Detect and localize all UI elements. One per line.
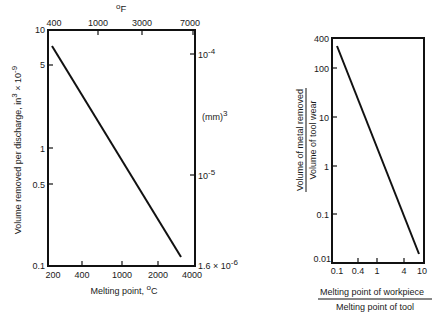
bottom-axis-ticks: 200 400 1000 2000 4000 <box>45 261 202 280</box>
left-chart: oF 400 1000 3000 7000 10 5 1 0.5 0.1 <box>10 2 238 296</box>
x-tick-label: 1 <box>374 266 379 276</box>
top-axis-ticks: 400 1000 3000 7000 <box>46 18 200 35</box>
y-tick-label: 400 <box>314 34 329 44</box>
x-tick-label: 200 <box>45 270 60 280</box>
x-tick-label: 400 <box>74 270 89 280</box>
right-y-axis-title: Volume of metal removed Volume of tool w… <box>295 88 318 192</box>
x-tick-label: 0.1 <box>331 266 344 276</box>
y-tick-label: 0.1 <box>316 210 329 220</box>
top-tick-label: 7000 <box>180 18 200 28</box>
right-tick-label: 10-4 <box>198 47 216 60</box>
right-x-axis-denominator: Melting point of tool <box>336 302 414 312</box>
top-tick-label: 1000 <box>88 18 108 28</box>
right-axis-unit: (mm)3 <box>202 109 228 122</box>
x-tick-label: 0.4 <box>352 266 365 276</box>
right-chart-x-ticks: 0.1 0.4 1 4 10 <box>331 258 427 276</box>
y-tick-label: 0.1 <box>32 261 45 271</box>
right-data-line <box>337 46 419 254</box>
left-x-axis-title: Melting point, oC <box>91 283 158 296</box>
right-y-axis-numerator: Volume of metal removed <box>295 89 305 191</box>
right-y-axis-denominator: Volume of tool wear <box>308 100 318 179</box>
x-tick-label: 10 <box>417 266 427 276</box>
x-tick-label: 2000 <box>148 270 168 280</box>
right-y-axis-ticks: 10-4 10-5 1.6 × 10-6 (mm)3 <box>190 47 238 271</box>
x-tick-label: 1000 <box>112 270 132 280</box>
y-tick-label: 5 <box>40 60 45 70</box>
left-plot-frame <box>48 30 195 266</box>
left-y-axis-title: Volume removed per discharge, in3 × 10-9 <box>10 65 23 234</box>
right-tick-label: 1.6 × 10-6 <box>198 258 238 271</box>
y-tick-label: 1 <box>40 144 45 154</box>
y-tick-label: 10 <box>35 25 45 35</box>
right-chart: 400 100 10 1 0.1 0.01 0.1 0.4 1 4 10 Mel… <box>295 34 432 312</box>
y-tick-label: 0.5 <box>32 180 45 190</box>
left-data-line <box>52 46 181 257</box>
y-tick-label: 1 <box>324 162 329 172</box>
x-tick-label: 4 <box>401 266 406 276</box>
y-tick-label: 100 <box>314 64 329 74</box>
y-tick-label: 0.01 <box>313 254 331 264</box>
right-tick-label: 10-5 <box>198 168 216 181</box>
top-axis-unit: oF <box>116 2 126 14</box>
top-tick-label: 400 <box>46 18 61 28</box>
top-tick-label: 3000 <box>132 18 152 28</box>
y-tick-label: 10 <box>319 113 329 123</box>
figure: oF 400 1000 3000 7000 10 5 1 0.5 0.1 <box>0 0 440 322</box>
left-y-axis-ticks: 10 5 1 0.5 0.1 <box>32 25 53 271</box>
right-x-axis-numerator: Melting point of workpiece <box>320 287 424 297</box>
x-tick-label: 4000 <box>182 270 202 280</box>
